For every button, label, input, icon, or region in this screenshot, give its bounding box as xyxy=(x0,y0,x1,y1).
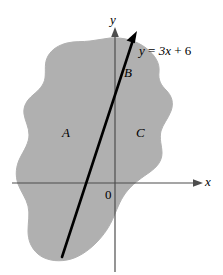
origin-label: 0 xyxy=(105,188,112,201)
region-label-b: B xyxy=(124,66,132,79)
equation-rhs-coeff: 3x xyxy=(159,43,171,58)
y-axis-label: y xyxy=(110,13,116,26)
figure-canvas xyxy=(0,0,223,275)
region-label-a: A xyxy=(62,126,70,139)
equation-const: 6 xyxy=(185,43,192,58)
region-label-c: C xyxy=(136,126,145,139)
x-axis-label: x xyxy=(205,175,211,188)
shaded-region-blob xyxy=(16,38,172,261)
line-equation-label: y = 3x + 6 xyxy=(139,44,191,57)
equation-plus: + xyxy=(174,43,181,58)
math-figure: y x 0 y = 3x + 6 A B C xyxy=(0,0,223,275)
equation-equals: = xyxy=(145,43,159,58)
